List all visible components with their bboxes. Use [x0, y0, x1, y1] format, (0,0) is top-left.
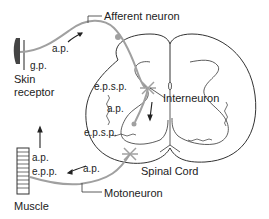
gp-label: g.p.	[30, 60, 47, 71]
ap-interneuron-label: a.p.	[107, 103, 124, 114]
afferent-neuron-label: Afferent neuron	[104, 10, 180, 22]
motoneuron-label: Motoneuron	[104, 187, 163, 199]
ap-motor-label: a.p.	[83, 163, 100, 174]
spinal-cord-label: Spinal Cord	[141, 165, 198, 177]
muscle-icon	[17, 148, 29, 194]
epp-label: e.p.p.	[32, 166, 57, 177]
interneuron-label: Interneuron	[163, 92, 219, 104]
afferent-cell-body	[115, 34, 121, 40]
epsp-lower-label: e.p.s.p.	[84, 127, 117, 138]
ap-muscle-label: a.p.	[32, 152, 49, 163]
interneuron-terminal	[132, 122, 137, 127]
interneuron-axon	[135, 88, 148, 122]
arrow-icons	[38, 33, 152, 174]
skin-receptor-icon	[14, 38, 24, 70]
central-canal-icon	[169, 82, 172, 90]
afferent-neuron-axon	[20, 21, 145, 88]
skin-receptor-label-2: receptor	[14, 86, 54, 98]
ap-afferent-label: a.p.	[52, 43, 69, 54]
muscle-label: Muscle	[14, 200, 49, 212]
epsp-upper-label: e.p.s.p.	[94, 81, 127, 92]
skin-receptor-label-1: Skin	[14, 73, 35, 85]
